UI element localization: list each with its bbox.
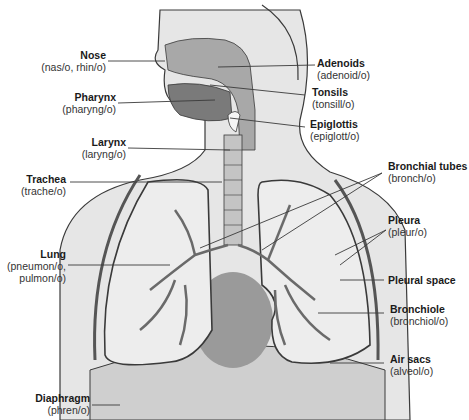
- label-root: (pharyng/o): [40, 103, 116, 115]
- label-root: (tonsill/o): [312, 98, 355, 110]
- label-term: Larynx: [50, 136, 126, 148]
- label-air-sacs: Air sacs (alveol/o): [390, 353, 433, 377]
- label-adenoids: Adenoids (adenoid/o): [317, 57, 370, 81]
- label-bronchiole: Bronchiole (bronchiol/o): [390, 303, 448, 327]
- label-epiglottis: Epiglottis (epiglott/o): [310, 118, 360, 142]
- label-term: Diaphragm: [0, 392, 90, 404]
- label-root: (pleur/o): [388, 226, 427, 238]
- respiratory-diagram: Nose (nas/o, rhin/o) Pharynx (pharyng/o)…: [0, 0, 469, 420]
- label-term: Pleura: [388, 214, 427, 226]
- label-root: (alveol/o): [390, 365, 433, 377]
- label-term: Nose: [30, 49, 106, 61]
- label-lung: Lung (pneumon/o, pulmon/o): [0, 248, 66, 284]
- label-pleural-space: Pleural space: [388, 274, 456, 286]
- label-root: (nas/o, rhin/o): [30, 61, 106, 73]
- label-term: Pleural space: [388, 274, 456, 286]
- label-root: (trache/o): [0, 185, 66, 197]
- label-root: (laryng/o): [50, 148, 126, 160]
- label-root: (epiglott/o): [310, 130, 360, 142]
- label-bronchial-tubes: Bronchial tubes (bronch/o): [388, 160, 467, 184]
- label-term: Bronchial tubes: [388, 160, 467, 172]
- label-tonsils: Tonsils (tonsill/o): [312, 86, 355, 110]
- label-term: Air sacs: [390, 353, 433, 365]
- label-root: pulmon/o): [0, 272, 66, 284]
- label-diaphragm: Diaphragm (phren/o): [0, 392, 90, 416]
- label-term: Bronchiole: [390, 303, 448, 315]
- label-root: (bronch/o): [388, 172, 467, 184]
- label-term: Adenoids: [317, 57, 370, 69]
- label-root: (phren/o): [0, 404, 90, 416]
- label-root: (adenoid/o): [317, 69, 370, 81]
- label-larynx: Larynx (laryng/o): [50, 136, 126, 160]
- label-nose: Nose (nas/o, rhin/o): [30, 49, 106, 73]
- label-term: Lung: [0, 248, 66, 260]
- label-term: Pharynx: [40, 91, 116, 103]
- label-root: (bronchiol/o): [390, 315, 448, 327]
- label-pleura: Pleura (pleur/o): [388, 214, 427, 238]
- label-root: (pneumon/o,: [0, 260, 66, 272]
- label-pharynx: Pharynx (pharyng/o): [40, 91, 116, 115]
- label-term: Tonsils: [312, 86, 355, 98]
- label-term: Epiglottis: [310, 118, 360, 130]
- label-term: Trachea: [0, 173, 66, 185]
- label-trachea: Trachea (trache/o): [0, 173, 66, 197]
